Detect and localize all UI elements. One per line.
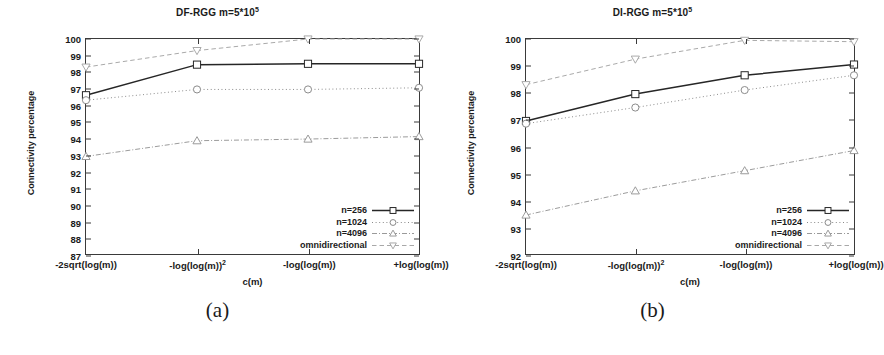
series-line-n-1024 [526, 75, 854, 123]
legend-item-label: n=1024 [771, 217, 802, 229]
y-axis-tick-mark [526, 201, 531, 202]
y-axis-tick-mark [86, 72, 91, 73]
plot-area-a: n=256n=1024n=4096omnidirectional c(m) 87… [85, 38, 420, 255]
data-point-square-marker [415, 60, 422, 67]
series-line-n-256 [526, 65, 854, 121]
y-axis-tick-mark [86, 122, 91, 123]
legend-item: n=4096 [735, 228, 850, 240]
y-axis-tick-mark [849, 39, 854, 40]
data-point-circle-marker [741, 86, 748, 93]
data-point-square-marker [850, 61, 857, 68]
chart-title-b: DI-RGG m=5*105 [435, 6, 870, 18]
y-axis-tick-label: 95 [47, 117, 81, 128]
panel-a: DF-RGG m=5*105 Connectivity percentage n… [0, 0, 435, 355]
series-line-omnidirectional [526, 40, 854, 84]
plot-area-b: n=256n=1024n=4096omnidirectional c(m) 92… [525, 38, 855, 255]
y-axis-tick-mark [849, 201, 854, 202]
x-axis-tick-mark [309, 249, 310, 254]
legend-item-key [806, 240, 850, 251]
data-point-circle-marker [304, 86, 311, 93]
y-axis-tick-mark [849, 66, 854, 67]
y-axis-tick-label: 97 [47, 84, 81, 95]
x-axis-tick-label: -log(log(m)) [283, 259, 336, 270]
y-axis-label-a: Connectivity percentage [26, 58, 36, 228]
data-point-circle-marker [632, 104, 639, 111]
data-point-circle-marker [522, 120, 529, 127]
y-axis-tick-label: 93 [487, 223, 521, 234]
y-axis-tick-label: 89 [47, 217, 81, 228]
legend-item-key [371, 228, 415, 239]
data-point-triangle-down-marker [82, 64, 90, 71]
panel-b: DI-RGG m=5*105 Connectivity percentage n… [435, 0, 870, 355]
legend-item-key [806, 228, 850, 239]
legend-item-key [371, 217, 415, 228]
y-axis-tick-mark [414, 172, 419, 173]
y-axis-tick-mark [86, 256, 91, 257]
legend-item-key [371, 205, 415, 216]
chart-title-a-text: DF-RGG m=5*10 [176, 7, 255, 18]
y-axis-tick-mark [86, 39, 91, 40]
data-point-triangle-down-marker [304, 36, 312, 43]
y-axis-tick-label: 100 [47, 34, 81, 45]
legend-b: n=256n=1024n=4096omnidirectional [735, 205, 850, 251]
y-axis-tick-label: 96 [47, 100, 81, 111]
y-axis-tick-mark [86, 222, 91, 223]
series-line-omnidirectional [86, 39, 419, 67]
data-point-triangle-up-marker [631, 187, 639, 194]
y-axis-tick-label: 95 [487, 169, 521, 180]
series-line-n-256 [86, 64, 419, 95]
chart-title-a: DF-RGG m=5*105 [0, 6, 435, 18]
y-axis-tick-label: 92 [47, 167, 81, 178]
y-axis-tick-mark [86, 205, 91, 206]
y-axis-tick-label: 94 [487, 196, 521, 207]
x-axis-tick-mark [746, 39, 747, 44]
y-axis-tick-mark [526, 120, 531, 121]
y-axis-tick-mark [526, 147, 531, 148]
y-axis-tick-mark [414, 139, 419, 140]
y-axis-tick-label: 93 [47, 150, 81, 161]
y-axis-tick-mark [86, 139, 91, 140]
y-axis-tick-mark [414, 122, 419, 123]
legend-item: n=256 [300, 205, 415, 217]
y-axis-tick-label: 96 [487, 142, 521, 153]
legend-a: n=256n=1024n=4096omnidirectional [300, 205, 415, 251]
data-point-triangle-down-marker [631, 56, 639, 63]
data-point-circle-marker [82, 97, 89, 104]
y-axis-tick-label: 98 [487, 88, 521, 99]
data-point-triangle-down-marker [850, 39, 858, 46]
y-axis-tick-mark [414, 205, 419, 206]
y-axis-tick-label: 100 [487, 34, 521, 45]
y-axis-tick-mark [849, 174, 854, 175]
y-axis-tick-label: 99 [487, 61, 521, 72]
panel-caption-a: (a) [0, 298, 435, 323]
y-axis-tick-mark [86, 89, 91, 90]
legend-item: n=1024 [300, 217, 415, 229]
legend-item-label: n=4096 [336, 228, 367, 240]
y-axis-tick-mark [849, 93, 854, 94]
x-axis-tick-label: -2sqrt(log(m)) [55, 259, 117, 270]
x-axis-tick-mark [636, 249, 637, 254]
data-point-triangle-down-marker [193, 48, 201, 55]
y-axis-tick-mark [86, 105, 91, 106]
x-axis-tick-label: -log(log(m))2 [608, 259, 665, 271]
data-point-triangle-down-marker [522, 82, 530, 89]
y-axis-tick-label: 90 [47, 200, 81, 211]
y-axis-tick-mark [526, 228, 531, 229]
y-axis-tick-mark [526, 174, 531, 175]
y-axis-tick-label: 98 [47, 67, 81, 78]
data-point-square-marker [304, 60, 311, 67]
legend-item: n=1024 [735, 217, 850, 229]
y-axis-tick-mark [86, 239, 91, 240]
y-axis-tick-mark [414, 256, 419, 257]
y-axis-tick-mark [86, 155, 91, 156]
y-axis-tick-mark [849, 147, 854, 148]
y-axis-tick-mark [526, 66, 531, 67]
data-point-square-marker [193, 61, 200, 68]
legend-item-key [806, 205, 850, 216]
y-axis-tick-label: 99 [47, 50, 81, 61]
y-axis-tick-label: 94 [47, 134, 81, 145]
legend-item-key [371, 240, 415, 251]
x-axis-tick-label: -2sqrt(log(m)) [495, 259, 557, 270]
y-axis-tick-mark [86, 189, 91, 190]
y-axis-tick-label: 97 [487, 115, 521, 126]
